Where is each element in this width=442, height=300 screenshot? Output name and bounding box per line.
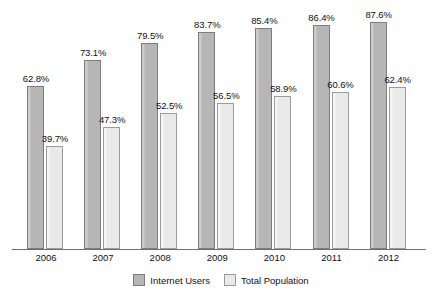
bar-value-label: 73.1% (71, 47, 115, 58)
legend-item-internet-users[interactable]: Internet Users (133, 274, 210, 286)
bar-group: 62.8%39.7% (27, 0, 65, 250)
bar-value-label: 62.4% (376, 74, 420, 85)
bar-2012-internet-users[interactable] (370, 22, 387, 249)
x-axis-label-2007: 2007 (77, 252, 129, 263)
x-axis-label-2011: 2011 (306, 252, 358, 263)
legend-item-total-population[interactable]: Total Population (224, 274, 309, 286)
bar-chart: 62.8%39.7%73.1%47.3%79.5%52.5%83.7%56.5%… (0, 0, 442, 300)
x-axis-line (12, 249, 426, 250)
x-axis-label-2006: 2006 (20, 252, 72, 263)
bar-value-label: 56.5% (204, 90, 248, 101)
bar-group: 87.6%62.4% (370, 0, 408, 250)
bar-2010-total-population[interactable] (274, 96, 291, 249)
bar-value-label: 60.6% (319, 79, 363, 90)
bar-2011-total-population[interactable] (332, 92, 349, 249)
legend-label: Total Population (241, 275, 309, 286)
bar-value-label: 39.7% (33, 133, 77, 144)
bar-group: 83.7%56.5% (198, 0, 236, 250)
bar-2008-total-population[interactable] (160, 113, 177, 249)
x-axis-tick-labels: 2006200720082009201020112012 (0, 252, 442, 270)
bar-value-label: 62.8% (14, 73, 58, 84)
bar-value-label: 47.3% (90, 114, 134, 125)
bar-group: 79.5%52.5% (141, 0, 179, 250)
legend-label: Internet Users (150, 275, 210, 286)
bar-2010-internet-users[interactable] (255, 28, 272, 249)
bar-2009-total-population[interactable] (217, 103, 234, 249)
plot-area: 62.8%39.7%73.1%47.3%79.5%52.5%83.7%56.5%… (0, 0, 442, 250)
chart-legend: Internet UsersTotal Population (0, 274, 442, 286)
bar-value-label: 86.4% (300, 12, 344, 23)
x-axis-label-2012: 2012 (363, 252, 415, 263)
legend-swatch-icon (133, 274, 145, 286)
bar-2009-internet-users[interactable] (198, 32, 215, 249)
bar-2012-total-population[interactable] (389, 87, 406, 249)
bar-value-label: 52.5% (147, 100, 191, 111)
bar-value-label: 79.5% (128, 30, 172, 41)
bar-2008-internet-users[interactable] (141, 43, 158, 249)
bar-value-label: 58.9% (261, 83, 305, 94)
bar-value-label: 87.6% (357, 9, 401, 20)
bar-2011-internet-users[interactable] (313, 25, 330, 249)
bar-group: 86.4%60.6% (313, 0, 351, 250)
bar-value-label: 83.7% (185, 19, 229, 30)
bar-2007-internet-users[interactable] (84, 60, 101, 249)
bar-2006-total-population[interactable] (46, 146, 63, 249)
x-axis-label-2009: 2009 (191, 252, 243, 263)
bar-group: 73.1%47.3% (84, 0, 122, 250)
x-axis-label-2010: 2010 (248, 252, 300, 263)
bar-2007-total-population[interactable] (103, 127, 120, 250)
x-axis-label-2008: 2008 (134, 252, 186, 263)
bar-value-label: 85.4% (242, 15, 286, 26)
legend-swatch-icon (224, 274, 236, 286)
bar-2006-internet-users[interactable] (27, 86, 44, 249)
bar-group: 85.4%58.9% (255, 0, 293, 250)
